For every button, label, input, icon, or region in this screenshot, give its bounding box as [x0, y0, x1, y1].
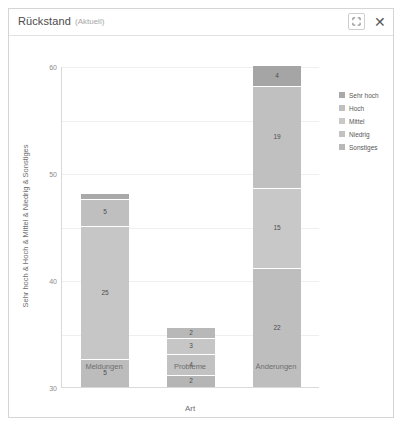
bar-segment-value: 19 — [273, 134, 280, 141]
y-tick-label: 60 — [49, 64, 57, 71]
bar-probleme[interactable]: 2342 — [167, 328, 215, 387]
x-axis-label: Art — [61, 404, 319, 413]
x-tick-label: Änderungen — [256, 362, 297, 371]
bar-segment[interactable]: 5 — [81, 200, 129, 227]
chart-window: Rückstand (Aktuell) ✕ Sehr hoch & Hoch &… — [8, 8, 394, 418]
legend-item[interactable]: Sehr hoch — [339, 90, 379, 100]
bar-segment-value: 3 — [189, 343, 193, 350]
close-icon[interactable]: ✕ — [372, 14, 387, 29]
bar-segment-value: 15 — [273, 225, 280, 232]
bar-segment-value: 22 — [273, 325, 280, 332]
bar-segment-value: 5 — [103, 209, 107, 216]
legend-item[interactable]: Hoch — [339, 103, 379, 113]
chart-canvas: Sehr hoch & Hoch & Mittel & Niedrig & So… — [9, 36, 393, 417]
legend-swatch — [339, 92, 345, 98]
bar-segment-value: 4 — [275, 73, 279, 80]
legend-label: Sonstiges — [349, 144, 378, 151]
legend-item[interactable]: Sonstiges — [339, 142, 379, 152]
bar-segment[interactable]: 25 — [81, 227, 129, 361]
legend-swatch — [339, 144, 345, 150]
legend-label: Hoch — [349, 105, 364, 112]
legend-swatch — [339, 131, 345, 137]
y-tick-label: 30 — [49, 385, 57, 392]
bar-segment-value: 5 — [103, 370, 107, 377]
legend-item[interactable]: Niedrig — [339, 129, 379, 139]
legend-swatch — [339, 118, 345, 124]
expand-icon[interactable] — [348, 13, 365, 30]
legend-swatch — [339, 105, 345, 111]
page-subtitle: (Aktuell) — [75, 17, 104, 26]
chart-legend: Sehr hochHochMittelNiedrigSonstiges — [339, 90, 379, 155]
legend-label: Mittel — [349, 118, 365, 125]
plot-area: 0102030405060 525523424191522 — [61, 67, 319, 388]
y-axis-label: Sehr hoch & Hoch & Mittel & Niedrig & So… — [21, 145, 30, 308]
bar-segment[interactable]: 2 — [167, 328, 215, 339]
legend-item[interactable]: Mittel — [339, 116, 379, 126]
y-tick-label: 50 — [49, 171, 57, 178]
bar-segment[interactable]: 19 — [253, 87, 301, 189]
titlebar-actions: ✕ — [348, 13, 387, 30]
y-tick-label: 40 — [49, 278, 57, 285]
bar-segment[interactable]: 4 — [253, 66, 301, 87]
bar-segment[interactable]: 15 — [253, 189, 301, 269]
bar-segment-value: 2 — [189, 330, 193, 337]
bar-segment-value: 25 — [101, 290, 108, 297]
page-title: Rückstand — [18, 15, 71, 27]
gridline: 0 — [62, 388, 319, 389]
legend-label: Niedrig — [349, 131, 370, 138]
window-titlebar: Rückstand (Aktuell) ✕ — [9, 9, 393, 36]
bar-segment-value: 2 — [189, 378, 193, 385]
bars-layer: 525523424191522 — [62, 67, 319, 387]
bar-segment[interactable]: 3 — [167, 339, 215, 355]
x-tick-label: Meldungen — [85, 362, 122, 371]
bar-änderungen[interactable]: 4191522 — [253, 66, 301, 387]
bar-meldungen[interactable]: 5255 — [81, 194, 129, 387]
bar-segment[interactable]: 2 — [167, 376, 215, 387]
legend-label: Sehr hoch — [349, 92, 379, 99]
x-tick-label: Probleme — [174, 362, 206, 371]
